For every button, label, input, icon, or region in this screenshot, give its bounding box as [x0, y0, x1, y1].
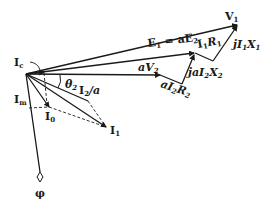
label-ji1x1: jI1X1: [231, 38, 260, 52]
flux-axis: [26, 74, 40, 172]
dashed-im-to-i0: [29, 107, 49, 108]
label-theta2: θ2: [65, 78, 77, 92]
phasor-e1: [26, 53, 194, 74]
theta2-arc: [58, 75, 61, 88]
label-i0: I0: [45, 110, 55, 124]
ic-pointer: [30, 62, 40, 70]
dashed-i0-to-i1: [49, 107, 106, 127]
phasor-diagram: φ V1 E1 = aE2 I1R1 jI1X1 aV2 aI2R2 jaI2X…: [0, 0, 265, 200]
label-e1: E1 = aE2: [147, 31, 199, 51]
label-i1r1: I1R1: [196, 34, 222, 52]
phasor-av2: [26, 74, 160, 75]
label-im: Im: [14, 93, 27, 107]
flux-arrow-icon: [37, 172, 43, 182]
label-phi: φ: [35, 187, 45, 200]
label-v1: V1: [224, 10, 239, 24]
phasor-i1r1: [195, 53, 213, 61]
label-av2: aV2: [138, 61, 159, 75]
label-jai2x2: jaI2X2: [186, 66, 223, 80]
label-i1: I1: [110, 124, 120, 138]
label-i2-over-a: I2/a: [79, 84, 100, 98]
label-ic: Ic: [14, 56, 23, 70]
dashed-i2a-to-i1: [88, 101, 106, 127]
